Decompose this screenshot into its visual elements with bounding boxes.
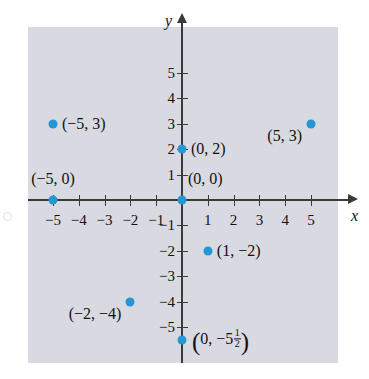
x-tick-label: 3 <box>256 213 264 228</box>
y-axis-tick <box>177 73 188 74</box>
y-tick-label: −2 <box>159 243 175 258</box>
point-5-3 <box>307 119 316 128</box>
y-tick-label: −4 <box>159 294 175 309</box>
x-axis-tick <box>130 195 131 206</box>
y-axis-tick <box>177 124 188 125</box>
x-tick-label: −3 <box>97 213 113 228</box>
x-axis-tick <box>105 195 106 206</box>
x-tick-label: −2 <box>122 213 138 228</box>
y-axis-label: y <box>165 12 172 30</box>
y-axis-tick <box>177 327 188 328</box>
x-axis-tick <box>208 195 209 206</box>
x-axis-line <box>28 199 350 201</box>
y-axis-tick <box>177 98 188 99</box>
y-tick-label: −5 <box>159 320 175 335</box>
y-axis-arrow-icon <box>177 13 187 23</box>
graph-figure: x y −5−4−3−2−11234554321−1−2−3−4−5 (−5, … <box>0 0 369 379</box>
x-axis-tick <box>156 195 157 206</box>
grid-line-vertical <box>337 27 338 363</box>
y-tick-label: 2 <box>168 142 176 157</box>
point-0-neg5half-label: (0, −512) <box>192 328 249 353</box>
point-5-3-label: (5, 3) <box>267 128 302 144</box>
x-axis-tick <box>311 195 312 206</box>
y-axis-tick <box>177 225 188 226</box>
point-neg5-3 <box>49 119 58 128</box>
page-edge-artifact <box>3 212 12 221</box>
point-0-2 <box>178 145 187 154</box>
y-axis-tick <box>177 175 188 176</box>
x-tick-label: −5 <box>45 213 61 228</box>
x-tick-label: 5 <box>307 213 315 228</box>
y-axis-tick <box>177 276 188 277</box>
point-neg2-neg4 <box>126 297 135 306</box>
point-0-2-label: (0, 2) <box>191 141 226 157</box>
x-axis-tick <box>234 195 235 206</box>
y-tick-label: −3 <box>159 269 175 284</box>
x-tick-label: −4 <box>71 213 87 228</box>
x-axis-label: x <box>351 207 358 225</box>
point-1-neg2-label: (1, −2) <box>217 243 261 259</box>
point-neg5-0 <box>49 196 58 205</box>
point-0-0 <box>178 196 187 205</box>
y-axis-tick <box>177 302 188 303</box>
grid-line-horizontal <box>28 48 338 49</box>
y-tick-label: 1 <box>168 167 176 182</box>
x-axis-tick <box>285 195 286 206</box>
y-tick-label: −1 <box>159 218 175 233</box>
y-tick-label: 4 <box>168 91 176 106</box>
x-tick-label: 4 <box>281 213 289 228</box>
point-neg5-3-label: (−5, 3) <box>62 116 106 132</box>
point-neg5-0-label: (−5, 0) <box>31 171 75 187</box>
point-0-0-label: (0, 0) <box>188 171 223 187</box>
y-tick-label: 3 <box>168 116 176 131</box>
point-neg2-neg4-label: (−2, −4) <box>69 306 122 322</box>
x-axis-arrow-icon <box>348 194 358 204</box>
point-0-neg5half <box>178 335 187 344</box>
x-tick-label: 1 <box>204 213 212 228</box>
y-tick-label: 5 <box>168 66 176 81</box>
y-axis-tick <box>177 251 188 252</box>
point-1-neg2 <box>203 246 212 255</box>
x-tick-label: 2 <box>230 213 238 228</box>
x-axis-tick <box>79 195 80 206</box>
grid-line-horizontal <box>28 352 338 353</box>
x-axis-tick <box>259 195 260 206</box>
